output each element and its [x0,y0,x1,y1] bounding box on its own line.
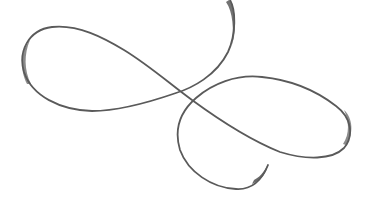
flourish-canvas [0,0,371,210]
tail-tip-swell [252,164,268,184]
flourish-stroke [22,0,350,189]
left-loop-swell [22,40,31,84]
calligraphic-flourish-ornament [0,0,371,210]
top-swell [226,0,235,45]
